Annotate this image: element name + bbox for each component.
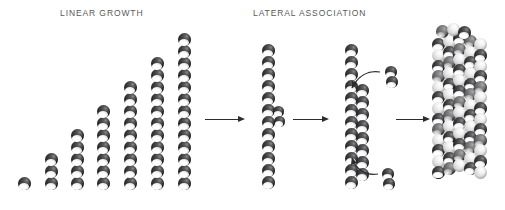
curved-arrow-layer — [0, 0, 505, 210]
diagram-canvas: LINEAR GROWTH LATERAL ASSOCIATION — [0, 0, 505, 210]
curved-arrow-top-icon — [352, 72, 380, 88]
curved-arrow-bottom-icon — [352, 158, 378, 174]
